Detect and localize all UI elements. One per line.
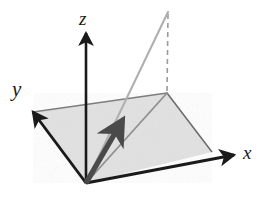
coordinate-diagram-svg: z y x — [0, 0, 270, 198]
axis-label-x: x — [242, 142, 252, 163]
axis-label-y: y — [10, 77, 22, 101]
figure-container: z y x — [0, 0, 270, 198]
axis-label-z: z — [78, 8, 87, 29]
dashed-vertical-projection — [167, 14, 168, 93]
